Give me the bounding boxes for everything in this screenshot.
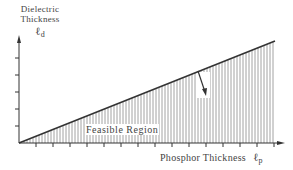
y-axis <box>15 35 21 143</box>
x-axis-label: Phosphor Thickness ℓp <box>160 152 263 164</box>
y-axis-symbol-subscript: d <box>41 30 45 39</box>
y-axis-label-line2: Thickness <box>9 14 71 24</box>
feasible-region-label: Feasible Region <box>85 124 159 135</box>
y-axis-symbol: ℓd <box>9 26 71 38</box>
y-axis-symbol-letter: ℓ <box>35 25 41 37</box>
y-axis-label-line1: Dielectric <box>9 4 71 14</box>
x-axis-symbol-subscript: p <box>258 156 262 165</box>
x-axis <box>19 141 285 147</box>
y-axis-label: Dielectric Thickness ℓd <box>9 4 71 38</box>
x-axis-label-text: Phosphor Thickness <box>160 152 246 163</box>
